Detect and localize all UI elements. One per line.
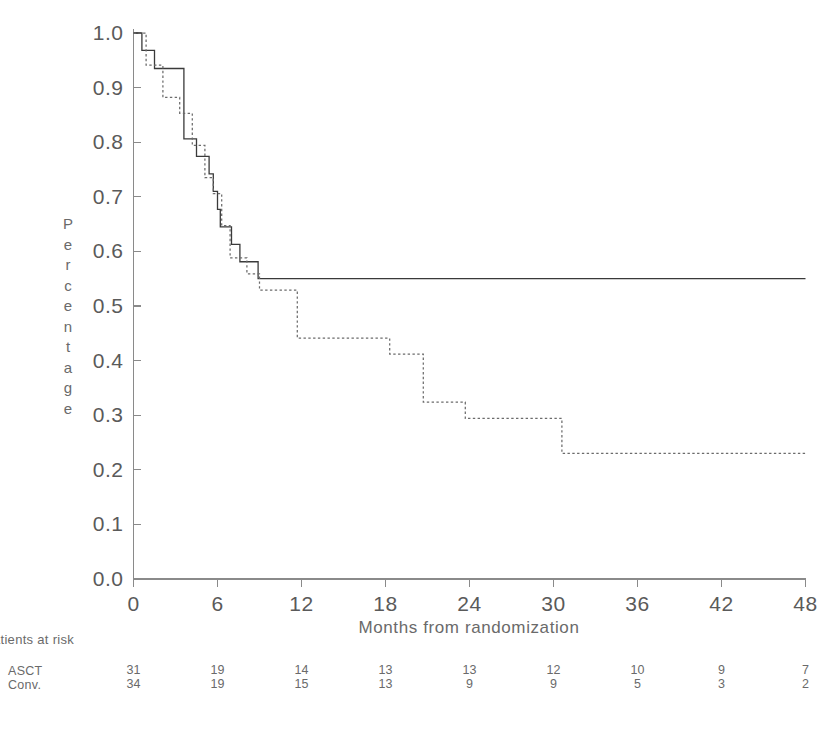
risk-row-label-asct: ASCT (8, 664, 43, 678)
y-tick-label: 0.7 (78, 186, 124, 207)
x-tick-label: 6 (188, 593, 248, 614)
risk-value: 10 (618, 664, 658, 677)
y-tick-label: 1.0 (78, 22, 124, 43)
x-tick-label: 36 (608, 593, 668, 614)
y-axis-title-letter: e (57, 235, 79, 256)
risk-value: 9 (450, 678, 490, 691)
x-tick-label: 18 (356, 593, 416, 614)
y-tick-label: 0.4 (78, 350, 124, 371)
x-tick-label: 12 (272, 593, 332, 614)
risk-value: 34 (114, 678, 154, 691)
axes (134, 29, 806, 587)
y-tick-label: 0.3 (78, 404, 124, 425)
risk-value: 2 (786, 678, 826, 691)
risk-value: 19 (198, 664, 238, 677)
risk-table-title: Patients at risk (0, 632, 74, 647)
y-axis-title-letter: g (57, 378, 79, 399)
risk-value: 31 (114, 664, 154, 677)
risk-value: 9 (534, 678, 574, 691)
x-tick-label: 48 (776, 593, 835, 614)
y-axis-title-letter: e (57, 296, 79, 317)
risk-value: 12 (534, 664, 574, 677)
x-tick-label: 0 (104, 593, 164, 614)
x-tick-label: 42 (692, 593, 752, 614)
risk-value: 7 (786, 664, 826, 677)
kaplan-meier-figure: 0.00.10.20.30.40.50.60.70.80.91.0 061218… (0, 0, 835, 742)
series-line-asct (134, 33, 806, 279)
y-axis-title-letter: t (57, 337, 79, 358)
series-line-conv (134, 33, 806, 453)
y-axis-title-letter: n (57, 317, 79, 338)
y-tick-label: 0.6 (78, 240, 124, 261)
y-tick-label: 0.0 (78, 568, 124, 589)
risk-row-label-conv: Conv. (8, 678, 41, 692)
risk-value: 9 (702, 664, 742, 677)
y-tick-label: 0.8 (78, 131, 124, 152)
series-lines (134, 33, 806, 453)
y-tick-label: 0.5 (78, 295, 124, 316)
risk-value: 15 (282, 678, 322, 691)
y-axis-title-letter: r (57, 255, 79, 276)
y-tick-label: 0.9 (78, 77, 124, 98)
y-tick-label: 0.1 (78, 513, 124, 534)
x-axis-title: Months from randomization (133, 618, 805, 638)
y-axis-title-letter: c (57, 276, 79, 297)
y-axis-title-letter: e (57, 399, 79, 420)
risk-value: 19 (198, 678, 238, 691)
risk-value: 13 (450, 664, 490, 677)
y-axis-title: Percentage (57, 214, 79, 419)
risk-value: 3 (702, 678, 742, 691)
risk-value: 14 (282, 664, 322, 677)
risk-value: 13 (366, 678, 406, 691)
x-tick-label: 24 (440, 593, 500, 614)
y-axis-title-letter: a (57, 358, 79, 379)
y-tick-label: 0.2 (78, 459, 124, 480)
y-axis-title-letter: P (57, 214, 79, 235)
risk-value: 5 (618, 678, 658, 691)
x-tick-label: 30 (524, 593, 584, 614)
risk-value: 13 (366, 664, 406, 677)
